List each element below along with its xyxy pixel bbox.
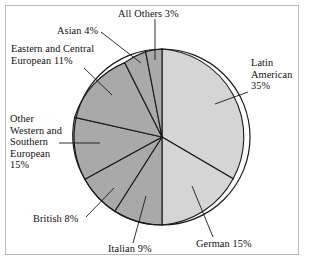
pie-label-german: German 15% [196, 238, 252, 250]
pie-label-latin-american: Latin American 35% [251, 57, 292, 92]
pie-label-all-others: All Others 3% [118, 8, 179, 20]
leader-line-asian [101, 32, 141, 63]
pie-slices [73, 49, 250, 225]
pie-chart-figure: All Others 3% Asian 4% Eastern and Centr… [0, 0, 309, 265]
pie-label-italian: Italian 9% [108, 243, 152, 255]
pie-label-eastern-central-european: Eastern and Central European 11% [11, 43, 94, 66]
pie-label-other-western-southern-european: Other Western and Southern European 15% [10, 113, 62, 171]
pie-label-asian: Asian 4% [57, 25, 98, 37]
pie-label-british: British 8% [33, 213, 78, 225]
